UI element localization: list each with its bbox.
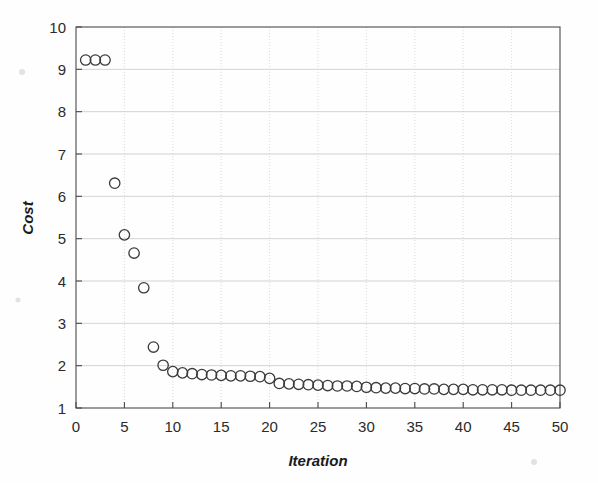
- x-tick-label: 5: [120, 418, 128, 435]
- figure-container: 12345678910 05101520253035404550 Iterati…: [0, 0, 598, 483]
- x-tick-label: 30: [358, 418, 375, 435]
- cost-vs-iteration-scatter-plot: 12345678910 05101520253035404550 Iterati…: [0, 0, 598, 483]
- x-tick-label: 45: [503, 418, 520, 435]
- y-tick-label: 6: [58, 188, 66, 205]
- scan-artifact-speck: [531, 459, 537, 465]
- y-tick-label: 5: [58, 230, 66, 247]
- y-axis-title: Cost: [19, 200, 36, 234]
- x-axis-title: Iteration: [288, 452, 347, 469]
- x-tick-label: 35: [406, 418, 423, 435]
- x-tick-label: 10: [164, 418, 181, 435]
- y-tick-label: 1: [58, 400, 66, 417]
- x-tick-label: 15: [213, 418, 230, 435]
- y-tick-label: 3: [58, 315, 66, 332]
- y-tick-label: 4: [58, 273, 66, 290]
- x-tick-label: 0: [72, 418, 80, 435]
- x-tick-label: 20: [261, 418, 278, 435]
- y-tick-label: 2: [58, 357, 66, 374]
- scan-artifact-speck: [16, 298, 21, 303]
- x-tick-label: 40: [455, 418, 472, 435]
- y-tick-label: 10: [49, 19, 66, 36]
- x-tick-label: 25: [310, 418, 327, 435]
- x-tick-label: 50: [552, 418, 569, 435]
- scan-artifact-speck: [19, 69, 25, 75]
- y-tick-label: 9: [58, 61, 66, 78]
- y-tick-label: 7: [58, 146, 66, 163]
- plot-background: [0, 0, 598, 483]
- y-tick-label: 8: [58, 103, 66, 120]
